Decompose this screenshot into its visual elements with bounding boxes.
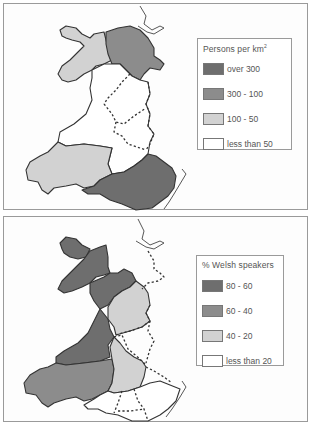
legend-label: less than 50 — [227, 139, 273, 149]
legend-item: 100 - 50 — [203, 107, 287, 132]
legend-item: less than 50 — [203, 132, 287, 157]
legend-item: over 300 — [203, 57, 287, 82]
legend-item: 80 - 60 — [202, 273, 279, 298]
legend-swatch-less-than-20 — [202, 355, 223, 367]
region-anglesey — [60, 237, 90, 259]
coastline-north — [136, 219, 164, 249]
legend-swatch-60-40 — [202, 305, 223, 317]
legend-swatch-100-50 — [203, 113, 224, 125]
legend-item: 300 - 100 — [203, 82, 287, 107]
welsh-speakers-map-panel: % Welsh speakers 80 - 60 60 - 40 40 - 20… — [3, 216, 308, 422]
legend-item: less than 20 — [202, 348, 279, 373]
population-density-map-panel: Persons per km2 over 300 300 - 100 100 -… — [3, 3, 308, 210]
legend-label: 300 - 100 — [227, 89, 263, 99]
legend-label: 40 - 20 — [226, 331, 252, 341]
legend-item: 60 - 40 — [202, 298, 279, 323]
legend-label: over 300 — [227, 64, 260, 74]
coastline-north — [138, 6, 164, 34]
welsh-speakers-legend: % Welsh speakers 80 - 60 60 - 40 40 - 20… — [196, 255, 284, 366]
legend-label: 80 - 60 — [226, 281, 252, 291]
legend-swatch-over-300 — [203, 63, 224, 75]
legend-label: 100 - 50 — [227, 114, 258, 124]
legend-title: % Welsh speakers — [202, 260, 279, 270]
legend-swatch-80-60 — [202, 280, 223, 292]
legend-swatch-40-20 — [202, 330, 223, 342]
legend-swatch-300-100 — [203, 88, 224, 100]
legend-label: 60 - 40 — [226, 306, 252, 316]
population-density-legend: Persons per km2 over 300 300 - 100 100 -… — [197, 38, 292, 150]
legend-title: Persons per km2 — [203, 43, 287, 54]
region-cardigan — [56, 309, 114, 365]
legend-label: less than 20 — [226, 356, 272, 366]
legend-item: 40 - 20 — [202, 323, 279, 348]
legend-swatch-less-than-50 — [203, 138, 224, 150]
